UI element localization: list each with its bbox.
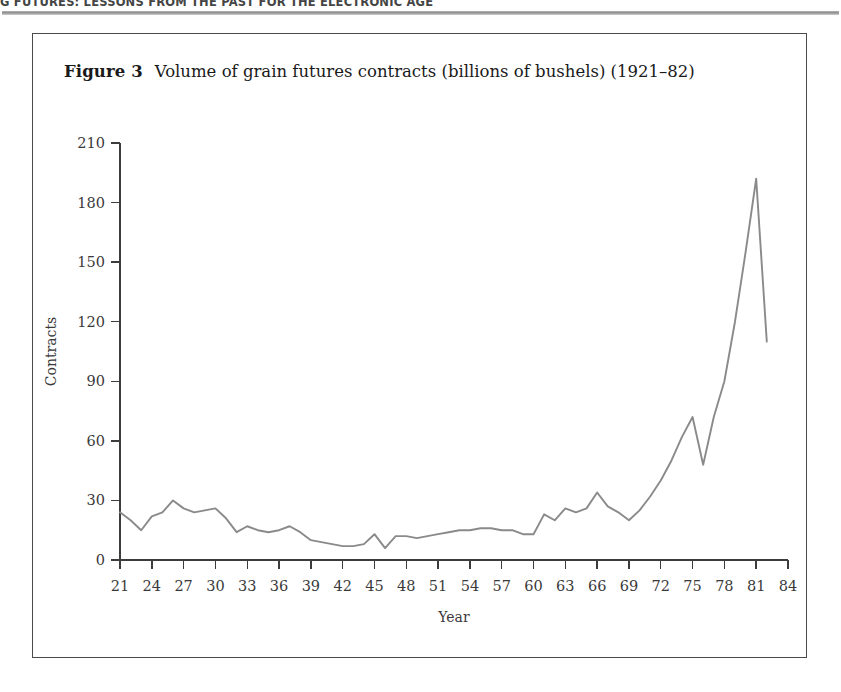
- running-head-text: G FUTURES: LESSONS FROM THE PAST FOR THE…: [0, 0, 433, 9]
- figure-label: Figure 3: [64, 62, 143, 81]
- figure-caption: Figure 3Volume of grain futures contract…: [64, 62, 695, 81]
- header-rule: [2, 11, 839, 15]
- figure-frame: [32, 33, 807, 658]
- figure-caption-text: Volume of grain futures contracts (billi…: [155, 62, 695, 81]
